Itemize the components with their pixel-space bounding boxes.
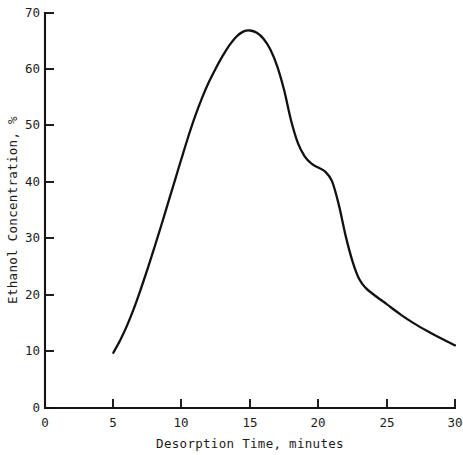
- y-tick-label-0: 0: [32, 400, 40, 415]
- x-axis-title: Desorption Time, minutes: [156, 436, 344, 451]
- x-tick-label-0: 0: [41, 415, 49, 430]
- y-tick-label-50: 50: [25, 117, 40, 132]
- chart-background: [0, 0, 463, 455]
- y-tick-label-30: 30: [25, 230, 40, 245]
- x-tick-label-20: 20: [310, 415, 325, 430]
- y-axis-title: Ethanol Concentration, %: [5, 116, 20, 304]
- y-tick-label-60: 60: [25, 61, 40, 76]
- y-tick-label-20: 20: [25, 287, 40, 302]
- x-tick-label-5: 5: [109, 415, 117, 430]
- x-tick-label-25: 25: [379, 415, 394, 430]
- y-tick-label-40: 40: [25, 174, 40, 189]
- x-tick-label-10: 10: [173, 415, 188, 430]
- y-tick-label-10: 10: [25, 343, 40, 358]
- y-tick-label-70: 70: [25, 5, 40, 20]
- ethanol-desorption-chart: 70 60 50 40 30 20 10 0 0 5 10 15 20 25 3…: [0, 0, 463, 455]
- x-tick-label-15: 15: [242, 415, 257, 430]
- x-tick-label-30: 30: [447, 415, 462, 430]
